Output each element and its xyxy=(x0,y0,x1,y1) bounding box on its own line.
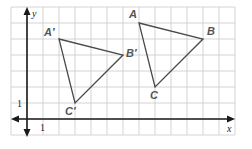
y-tick-label: 1 xyxy=(17,98,22,109)
triangles: ABCA′B′C′ xyxy=(43,8,215,117)
x-axis-arrow-right-icon xyxy=(227,116,235,123)
vertex-label: C′ xyxy=(65,105,77,117)
y-axis-arrow-down-icon xyxy=(24,129,31,137)
x-axis-label: x xyxy=(226,123,232,134)
x-tick-label: 1 xyxy=(40,122,45,133)
coordinate-grid: y x 1 1 ABCA′B′C′ xyxy=(0,0,252,149)
vertex-label: B xyxy=(207,25,215,37)
vertex-label: A′ xyxy=(43,26,56,38)
vertex-label: B′ xyxy=(126,47,138,59)
y-axis-label: y xyxy=(31,8,37,19)
x-axis-arrow-left-icon xyxy=(11,116,19,123)
vertex-label: A xyxy=(128,8,137,20)
y-axis-arrow-up-icon xyxy=(24,7,31,15)
vertex-label: C xyxy=(150,89,159,101)
